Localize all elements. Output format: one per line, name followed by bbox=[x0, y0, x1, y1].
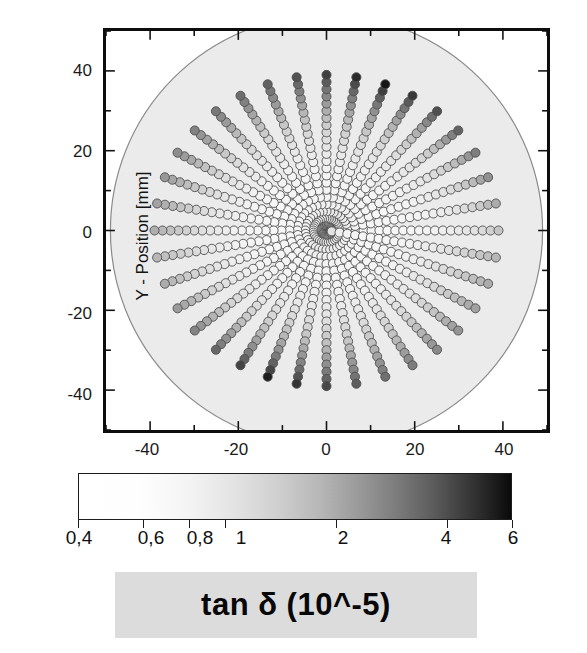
data-point bbox=[190, 326, 199, 335]
data-point bbox=[352, 73, 361, 82]
x-tick-label-neg40: -40 bbox=[117, 440, 177, 460]
data-point bbox=[408, 361, 417, 370]
y-tick-label-neg40: -40 bbox=[30, 385, 92, 405]
colorbar-gradient bbox=[78, 473, 512, 520]
colorbar-label-6: 6 bbox=[486, 527, 540, 549]
data-point bbox=[153, 199, 162, 208]
y-tick-label-neg20: -20 bbox=[30, 304, 92, 324]
data-point bbox=[292, 73, 301, 82]
data-point bbox=[160, 173, 169, 182]
data-point bbox=[153, 253, 162, 262]
data-point bbox=[433, 345, 442, 354]
x-tick-label-20: 20 bbox=[385, 440, 445, 460]
y-tick-label-40: 40 bbox=[30, 61, 92, 81]
data-point bbox=[322, 382, 331, 391]
data-point bbox=[352, 379, 361, 388]
colorbar-container bbox=[78, 473, 512, 520]
data-point bbox=[494, 226, 503, 235]
x-tick-label-0: 0 bbox=[296, 440, 356, 460]
colorbar-label-4: 4 bbox=[419, 527, 473, 549]
data-point bbox=[471, 148, 480, 157]
data-point bbox=[491, 253, 500, 262]
data-point bbox=[211, 107, 220, 116]
data-point bbox=[173, 304, 182, 313]
data-point bbox=[236, 361, 245, 370]
data-point bbox=[433, 107, 442, 116]
data-point bbox=[381, 80, 390, 89]
data-point bbox=[454, 126, 463, 135]
data-point bbox=[160, 279, 169, 288]
y-axis-title: Y - Position [mm] bbox=[133, 141, 153, 331]
scatter-plot-canvas bbox=[106, 31, 547, 430]
data-point bbox=[484, 173, 493, 182]
data-point bbox=[408, 91, 417, 100]
data-point bbox=[173, 148, 182, 157]
figure-root: Y - Position [mm] 40 20 0 -20 -40 -40 -2… bbox=[0, 0, 587, 653]
data-point bbox=[236, 91, 245, 100]
colorbar-label-1: 1 bbox=[214, 527, 268, 549]
y-tick-label-0: 0 bbox=[30, 223, 92, 243]
x-tick-label-40: 40 bbox=[474, 440, 534, 460]
data-point bbox=[484, 279, 493, 288]
x-tick-label-neg20: -20 bbox=[206, 440, 266, 460]
data-point bbox=[292, 379, 301, 388]
data-point bbox=[211, 345, 220, 354]
data-point bbox=[454, 326, 463, 335]
data-point bbox=[190, 126, 199, 135]
colorbar-label-0-6: 0,6 bbox=[124, 527, 178, 549]
data-point bbox=[322, 70, 331, 79]
scatter-plot-panel: Y - Position [mm] bbox=[103, 28, 550, 433]
data-point bbox=[491, 199, 500, 208]
data-point bbox=[471, 304, 480, 313]
colorbar-label-2: 2 bbox=[316, 527, 370, 549]
figure-title: tan δ (10^-5) bbox=[201, 587, 391, 623]
data-point bbox=[263, 80, 272, 89]
data-point bbox=[263, 372, 272, 381]
data-point bbox=[381, 372, 390, 381]
y-tick-label-20: 20 bbox=[30, 142, 92, 162]
figure-title-band: tan δ (10^-5) bbox=[115, 572, 477, 638]
colorbar-label-0-4: 0,4 bbox=[52, 527, 106, 549]
